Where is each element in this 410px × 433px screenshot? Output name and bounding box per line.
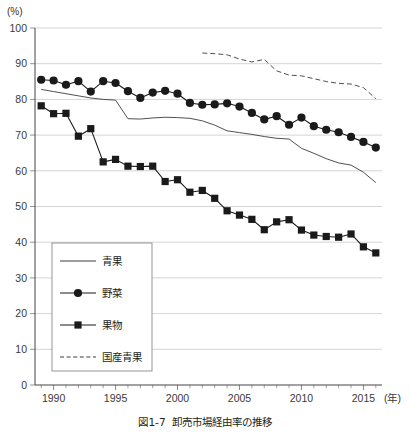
- data-point-kudamono: [87, 125, 94, 132]
- y-tick-label: 80: [15, 93, 27, 105]
- data-point-kudamono: [100, 158, 107, 165]
- data-point-yasai: [186, 99, 194, 107]
- figure-container: (%) 0102030405060708090100 1990199520002…: [0, 0, 410, 433]
- data-point-kudamono: [211, 195, 218, 202]
- data-point-kudamono: [137, 163, 144, 170]
- data-point-yasai: [347, 133, 355, 141]
- data-point-yasai: [198, 101, 206, 109]
- legend-label: 青果: [102, 255, 123, 267]
- data-point-kudamono: [360, 243, 367, 250]
- data-point-kudamono: [310, 231, 317, 238]
- data-point-yasai: [49, 76, 57, 84]
- data-point-yasai: [322, 126, 330, 134]
- x-tick-label: 2010: [290, 392, 314, 404]
- legend-swatch-circle-marker: [74, 289, 82, 297]
- x-tick-label: 2015: [352, 392, 376, 404]
- data-point-yasai: [37, 76, 45, 84]
- series-line-seika: [41, 89, 376, 182]
- data-point-kudamono: [298, 226, 305, 233]
- data-point-kudamono: [285, 216, 292, 223]
- figure-caption: 図1-7卸売市場経由率の推移: [0, 414, 410, 429]
- data-point-yasai: [273, 112, 281, 120]
- legend-label: 果物: [102, 319, 122, 331]
- data-point-yasai: [161, 87, 169, 95]
- legend-label: 野菜: [102, 287, 123, 299]
- chart-plot: 0102030405060708090100 19901995200020052…: [0, 0, 410, 410]
- y-tick-label: 90: [15, 57, 27, 69]
- y-tick-label: 30: [15, 272, 27, 284]
- y-tick-label: 70: [15, 129, 27, 141]
- x-tick-label: 1990: [42, 392, 66, 404]
- y-tick-label: 40: [15, 236, 27, 248]
- data-point-kudamono: [372, 249, 379, 256]
- data-point-kudamono: [124, 163, 131, 170]
- data-point-kudamono: [335, 234, 342, 241]
- legend-swatch-square-marker: [74, 321, 81, 328]
- data-point-kudamono: [223, 207, 230, 214]
- y-tick-label: 0: [21, 379, 27, 391]
- y-tick-labels-group: 0102030405060708090100: [9, 22, 27, 391]
- series-line-kokusan-seika: [202, 53, 375, 99]
- data-point-yasai: [235, 102, 243, 110]
- data-point-kudamono: [174, 176, 181, 183]
- figure-caption-number: 図1-7: [138, 416, 165, 428]
- legend[interactable]: 青果野菜果物国産青果: [52, 243, 152, 371]
- data-point-kudamono: [162, 178, 169, 185]
- data-point-kudamono: [248, 216, 255, 223]
- x-tick-label: 2000: [166, 392, 190, 404]
- data-point-yasai: [74, 77, 82, 85]
- data-point-kudamono: [186, 189, 193, 196]
- data-point-yasai: [260, 115, 268, 123]
- data-point-yasai: [62, 81, 70, 89]
- x-tick-labels-group: 199019952000200520102015(年): [42, 392, 401, 404]
- x-tick-marks-group: [41, 385, 376, 390]
- data-point-yasai: [248, 109, 256, 117]
- x-axis-unit-label: (年): [384, 392, 401, 404]
- data-point-yasai: [211, 100, 219, 108]
- data-point-kudamono: [50, 110, 57, 117]
- x-tick-label: 1995: [104, 392, 128, 404]
- y-tick-label: 60: [15, 165, 27, 177]
- data-point-yasai: [310, 122, 318, 130]
- data-point-kudamono: [38, 102, 45, 109]
- data-point-kudamono: [273, 218, 280, 225]
- data-point-yasai: [223, 99, 231, 107]
- series-lines-group: [41, 53, 376, 253]
- data-point-kudamono: [62, 110, 69, 117]
- data-point-yasai: [372, 143, 380, 151]
- data-point-yasai: [124, 87, 132, 95]
- y-tick-label: 100: [9, 22, 27, 34]
- data-point-kudamono: [75, 133, 82, 140]
- legend-label: 国産青果: [102, 351, 143, 363]
- data-point-kudamono: [199, 187, 206, 194]
- data-point-yasai: [359, 138, 367, 146]
- data-point-kudamono: [236, 211, 243, 218]
- data-point-yasai: [173, 90, 181, 98]
- data-point-yasai: [99, 77, 107, 85]
- data-point-kudamono: [261, 226, 268, 233]
- data-point-yasai: [136, 94, 144, 102]
- data-point-kudamono: [149, 163, 156, 170]
- data-point-yasai: [111, 79, 119, 87]
- data-point-yasai: [285, 121, 293, 129]
- data-point-kudamono: [112, 156, 119, 163]
- x-tick-label: 2005: [228, 392, 252, 404]
- data-point-yasai: [335, 128, 343, 136]
- data-point-kudamono: [347, 230, 354, 237]
- figure-caption-title: 卸売市場経由率の推移: [172, 416, 272, 428]
- data-point-yasai: [87, 87, 95, 95]
- y-tick-label: 10: [15, 343, 27, 355]
- data-point-yasai: [149, 89, 157, 97]
- series-markers-group: [37, 76, 380, 257]
- y-tick-label: 20: [15, 307, 27, 319]
- data-point-kudamono: [323, 233, 330, 240]
- y-tick-label: 50: [15, 200, 27, 212]
- data-point-yasai: [297, 114, 305, 122]
